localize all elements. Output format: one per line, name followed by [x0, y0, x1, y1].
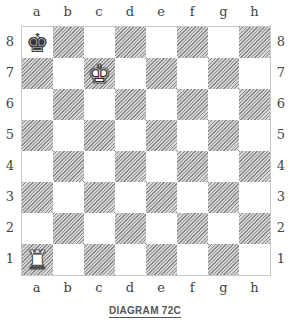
square-d3: [115, 182, 146, 213]
square-h1: [239, 244, 270, 275]
square-b8: [53, 27, 84, 58]
rank-label: 8: [2, 26, 18, 57]
square-c1: [84, 244, 115, 275]
square-c6: [84, 89, 115, 120]
rank-label: 6: [2, 88, 18, 119]
square-e2: [146, 213, 177, 244]
square-g8: [208, 27, 239, 58]
square-e8: [146, 27, 177, 58]
diagram-caption-container: DIAGRAM 72C: [0, 299, 290, 318]
file-label: h: [239, 280, 270, 296]
square-f6: [177, 89, 208, 120]
square-d8: [115, 27, 146, 58]
rank-label: 4: [273, 150, 289, 181]
square-g1: [208, 244, 239, 275]
square-c8: [84, 27, 115, 58]
rank-labels-left: 8 7 6 5 4 3 2 1: [2, 26, 18, 274]
rank-label: 2: [2, 212, 18, 243]
square-f1: [177, 244, 208, 275]
rank-label: 5: [273, 119, 289, 150]
square-a6: [22, 89, 53, 120]
square-f8: [177, 27, 208, 58]
square-g4: [208, 151, 239, 182]
white-king-icon: ♚: [88, 61, 111, 87]
square-b1: [53, 244, 84, 275]
file-label: c: [83, 280, 114, 296]
file-label: b: [52, 280, 83, 296]
square-d1: [115, 244, 146, 275]
square-h5: [239, 120, 270, 151]
square-g7: [208, 58, 239, 89]
file-label: c: [83, 4, 114, 20]
square-f2: [177, 213, 208, 244]
square-e5: [146, 120, 177, 151]
square-h8: [239, 27, 270, 58]
rank-label: 2: [273, 212, 289, 243]
file-labels-top: a b c d e f g h: [21, 4, 270, 20]
rank-label: 6: [273, 88, 289, 119]
square-e7: [146, 58, 177, 89]
square-b6: [53, 89, 84, 120]
square-c7: ♚: [84, 58, 115, 89]
square-b7: [53, 58, 84, 89]
file-label: e: [146, 4, 177, 20]
file-label: g: [208, 4, 239, 20]
square-d6: [115, 89, 146, 120]
square-a5: [22, 120, 53, 151]
file-label: f: [177, 4, 208, 20]
rank-label: 5: [2, 119, 18, 150]
square-g2: [208, 213, 239, 244]
file-label: a: [21, 4, 52, 20]
rank-label: 1: [2, 243, 18, 274]
square-h2: [239, 213, 270, 244]
square-f4: [177, 151, 208, 182]
chess-board: ♚♚♜: [21, 26, 271, 276]
square-g5: [208, 120, 239, 151]
square-d4: [115, 151, 146, 182]
file-label: a: [21, 280, 52, 296]
square-g3: [208, 182, 239, 213]
square-f5: [177, 120, 208, 151]
file-labels-bottom: a b c d e f g h: [21, 280, 270, 296]
square-e4: [146, 151, 177, 182]
square-a1: ♜: [22, 244, 53, 275]
square-c2: [84, 213, 115, 244]
diagram-caption: DIAGRAM 72C: [109, 305, 181, 318]
square-b5: [53, 120, 84, 151]
rank-label: 8: [273, 26, 289, 57]
square-a8: ♚: [22, 27, 53, 58]
square-a4: [22, 151, 53, 182]
square-g6: [208, 89, 239, 120]
rank-label: 3: [273, 181, 289, 212]
square-c4: [84, 151, 115, 182]
square-c3: [84, 182, 115, 213]
square-c5: [84, 120, 115, 151]
rank-label: 4: [2, 150, 18, 181]
rank-label: 7: [273, 57, 289, 88]
file-label: b: [52, 4, 83, 20]
rank-label: 3: [2, 181, 18, 212]
file-label: d: [114, 4, 145, 20]
file-label: d: [114, 280, 145, 296]
square-e1: [146, 244, 177, 275]
square-h4: [239, 151, 270, 182]
square-b4: [53, 151, 84, 182]
file-label: g: [208, 280, 239, 296]
rank-label: 7: [2, 57, 18, 88]
square-a3: [22, 182, 53, 213]
square-f7: [177, 58, 208, 89]
file-label: e: [146, 280, 177, 296]
rank-labels-right: 8 7 6 5 4 3 2 1: [273, 26, 289, 274]
square-e6: [146, 89, 177, 120]
file-label: f: [177, 280, 208, 296]
square-h3: [239, 182, 270, 213]
square-a7: [22, 58, 53, 89]
white-rook-icon: ♜: [26, 247, 49, 273]
square-d7: [115, 58, 146, 89]
square-d2: [115, 213, 146, 244]
square-h6: [239, 89, 270, 120]
square-d5: [115, 120, 146, 151]
square-h7: [239, 58, 270, 89]
square-b2: [53, 213, 84, 244]
rank-label: 1: [273, 243, 289, 274]
